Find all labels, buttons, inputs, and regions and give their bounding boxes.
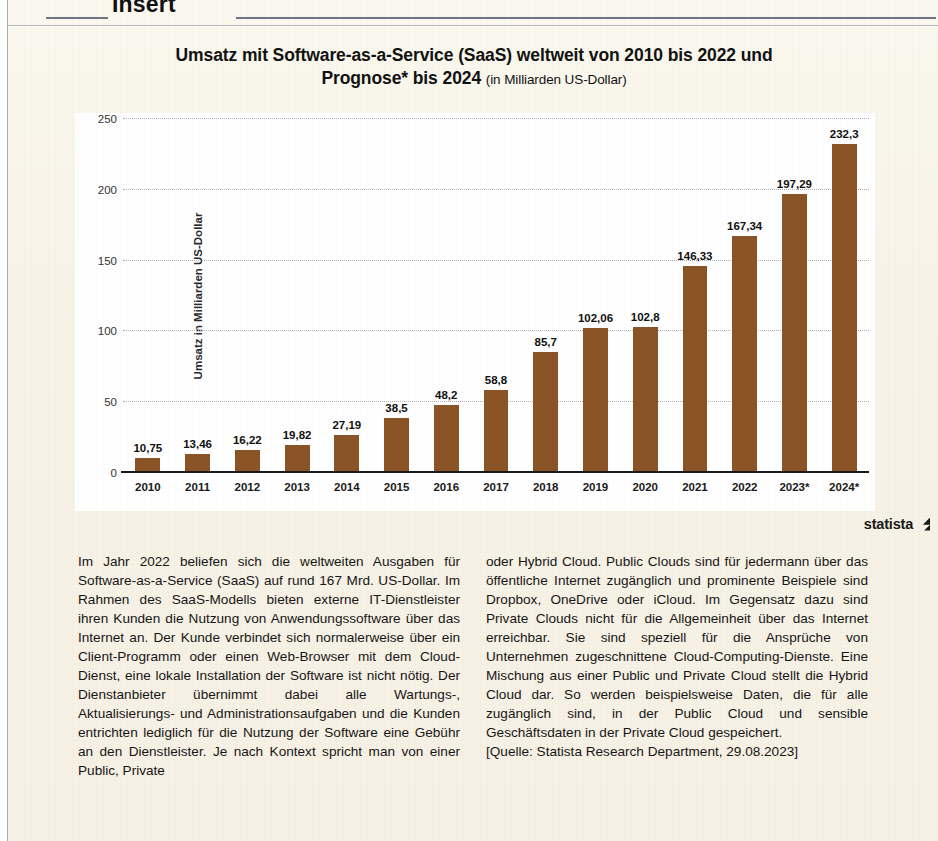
- article-paragraph-right: oder Hybrid Cloud. Public Clouds sind fü…: [486, 552, 868, 742]
- bar-value-label: 85,7: [535, 336, 557, 348]
- bar-value-label: 27,19: [332, 419, 361, 431]
- insert-header: Insert: [0, 0, 938, 26]
- bar-slot: 146,332021: [670, 119, 720, 473]
- y-axis-tick-label: 250: [98, 113, 117, 125]
- statista-wordmark: statista: [864, 516, 913, 532]
- bar-value-label: 16,22: [233, 434, 262, 446]
- x-axis-tick-label: 2023*: [779, 481, 809, 493]
- bar-value-label: 102,8: [631, 311, 660, 323]
- y-axis-tick-label: 100: [98, 325, 117, 337]
- x-axis-tick-label: 2017: [483, 481, 509, 493]
- article-paragraph-left: Im Jahr 2022 beliefen sich die weltweite…: [78, 552, 460, 780]
- bar[interactable]: 27,19: [334, 435, 359, 474]
- bar-chart: Umsatz in Milliarden US-Dollar 050100150…: [75, 113, 875, 511]
- bar[interactable]: 146,33: [683, 266, 708, 473]
- bar-value-label: 232,3: [830, 128, 859, 140]
- bar-value-label: 13,46: [183, 438, 212, 450]
- bar[interactable]: 197,29: [782, 194, 807, 473]
- bar-slot: 85,72018: [521, 119, 571, 473]
- bar-value-label: 48,2: [435, 389, 457, 401]
- bar-slot: 48,22016: [421, 119, 471, 473]
- insert-rule-right: [236, 17, 936, 19]
- bar-slot: 197,292023*: [770, 119, 820, 473]
- bar-slot: 167,342022: [720, 119, 770, 473]
- bar-slot: 38,52015: [372, 119, 422, 473]
- scanned-page: Insert Umsatz mit Software-as-a-Service …: [0, 0, 938, 841]
- article-column-left: Im Jahr 2022 beliefen sich die weltweite…: [78, 552, 460, 780]
- statista-mark-icon: [917, 518, 930, 531]
- bar-slot: 10,752010: [123, 119, 173, 473]
- article-body: Im Jahr 2022 beliefen sich die weltweite…: [78, 552, 868, 780]
- bar-value-label: 197,29: [777, 178, 812, 190]
- x-axis-tick-label: 2020: [632, 481, 658, 493]
- x-axis-tick-label: 2024*: [829, 481, 859, 493]
- chart-title: Umsatz mit Software-as-a-Service (SaaS) …: [70, 44, 878, 91]
- chart-title-unit: (in Milliarden US-Dollar): [486, 72, 627, 87]
- y-axis-tick-label: 200: [98, 184, 117, 196]
- x-axis-tick-label: 2012: [235, 481, 261, 493]
- x-axis-tick-label: 2015: [384, 481, 410, 493]
- x-axis-tick-label: 2014: [334, 481, 360, 493]
- bar-value-label: 146,33: [677, 250, 712, 262]
- article-source: [Quelle: Statista Research Department, 2…: [486, 742, 868, 761]
- bar-value-label: 102,06: [578, 312, 613, 324]
- bar[interactable]: 19,82: [285, 445, 310, 473]
- x-axis-tick-label: 2018: [533, 481, 559, 493]
- y-axis-tick-label: 0: [111, 467, 117, 479]
- bar-value-label: 58,8: [485, 374, 507, 386]
- bar-value-label: 167,34: [727, 220, 762, 232]
- x-axis-tick-label: 2019: [583, 481, 609, 493]
- article-column-right: oder Hybrid Cloud. Public Clouds sind fü…: [486, 552, 868, 780]
- x-axis-tick-label: 2022: [732, 481, 758, 493]
- bar[interactable]: 58,8: [484, 390, 509, 473]
- bar[interactable]: 102,06: [583, 328, 608, 473]
- bar-slot: 27,192014: [322, 119, 372, 473]
- bar-value-label: 19,82: [283, 429, 312, 441]
- bar-slot: 13,462011: [173, 119, 223, 473]
- bar-slot: 16,222012: [222, 119, 272, 473]
- x-axis-tick-label: 2021: [682, 481, 708, 493]
- bar-slot: 19,822013: [272, 119, 322, 473]
- insert-rule-left: [46, 17, 108, 19]
- bar-slot: 102,062019: [571, 119, 621, 473]
- header-underline: [8, 25, 938, 26]
- bar-value-label: 38,5: [385, 402, 407, 414]
- bar[interactable]: 167,34: [732, 236, 757, 473]
- x-axis-line: [121, 471, 869, 474]
- y-axis-tick-label: 50: [104, 396, 117, 408]
- x-axis-tick-label: 2011: [185, 481, 210, 493]
- y-axis-tick-label: 150: [98, 255, 117, 267]
- bar-value-label: 10,75: [133, 442, 162, 454]
- bar[interactable]: 48,2: [434, 405, 459, 473]
- x-axis-tick-label: 2013: [284, 481, 310, 493]
- bar[interactable]: 232,3: [832, 144, 857, 473]
- page-left-margin: [0, 0, 7, 841]
- insert-header-label: Insert: [112, 0, 176, 18]
- bar-slot: 102,82020: [620, 119, 670, 473]
- bar[interactable]: 38,5: [384, 418, 409, 473]
- chart-title-line1: Umsatz mit Software-as-a-Service (SaaS) …: [176, 45, 773, 65]
- bar[interactable]: 85,7: [533, 352, 558, 473]
- bar-series: 10,75201013,46201116,22201219,82201327,1…: [123, 119, 869, 473]
- bar[interactable]: 102,8: [633, 327, 658, 473]
- x-axis-tick-label: 2010: [135, 481, 161, 493]
- bar-slot: 232,32024*: [819, 119, 869, 473]
- x-axis-tick-label: 2016: [433, 481, 459, 493]
- statista-logo: statista: [864, 516, 930, 532]
- page-left-border: [7, 0, 8, 841]
- plot-area: Umsatz in Milliarden US-Dollar 050100150…: [123, 119, 869, 473]
- chart-title-line2: Prognose* bis 2024: [321, 68, 481, 88]
- bar-slot: 58,82017: [471, 119, 521, 473]
